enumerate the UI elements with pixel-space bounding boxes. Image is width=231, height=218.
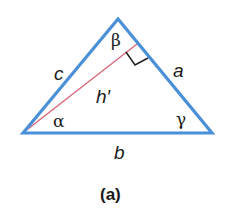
side-label-c: c <box>54 63 64 84</box>
angle-label-gamma: γ <box>176 109 186 129</box>
angle-label-alpha: α <box>53 111 65 131</box>
altitude-line-h-prime <box>24 44 137 132</box>
right-angle-marker <box>126 52 148 65</box>
side-label-b: b <box>114 142 125 163</box>
triangle-diagram: c a b h′ α β γ (a) <box>0 0 231 218</box>
side-label-a: a <box>173 60 184 81</box>
altitude-label: h′ <box>96 86 112 107</box>
angle-label-beta: β <box>111 30 121 50</box>
figure-caption: (a) <box>100 185 121 204</box>
